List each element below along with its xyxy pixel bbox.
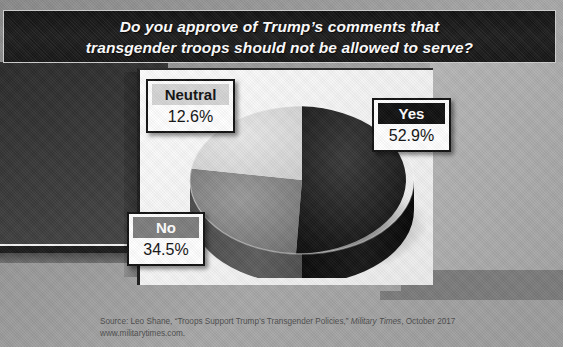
callout-neutral-key: Neutral <box>152 84 229 105</box>
source-line-2: www.militarytimes.com. <box>100 328 530 340</box>
title-line-2: transgender troops should not be allowed… <box>86 37 473 58</box>
source-suffix: , October 2017 <box>401 317 455 326</box>
background-band-right-small <box>380 291 425 300</box>
callout-neutral: Neutral 12.6% <box>146 79 235 133</box>
source-note: Source: Leo Shane, “Troops Support Trump… <box>100 316 530 340</box>
title-line-1: Do you approve of Trump’s comments that <box>120 16 439 37</box>
callout-no-key: No <box>133 217 199 238</box>
infographic-root: Do you approve of Trump’s comments that … <box>0 0 563 347</box>
callout-no: No 34.5% <box>127 212 205 266</box>
callout-neutral-value: 12.6% <box>152 105 229 127</box>
callout-yes-value: 52.9% <box>378 124 445 146</box>
source-prefix: Source: Leo Shane, “Troops Support Trump… <box>100 317 351 326</box>
background-block-right <box>430 62 563 277</box>
callout-no-value: 34.5% <box>133 238 199 260</box>
title-banner: Do you approve of Trump’s comments that … <box>3 10 556 63</box>
source-line-1: Source: Leo Shane, “Troops Support Trump… <box>100 316 530 328</box>
callout-yes: Yes 52.9% <box>372 98 451 152</box>
source-publication: Military Times <box>351 317 401 326</box>
callout-yes-key: Yes <box>378 103 445 124</box>
